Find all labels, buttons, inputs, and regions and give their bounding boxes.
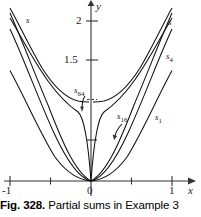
x-tick-label-1: 1 bbox=[169, 184, 175, 196]
curve-label-s-right-text: s bbox=[168, 17, 172, 27]
leader-s64-arrowhead bbox=[80, 107, 84, 113]
figure-caption: Fig. 328. Partial sums in Example 3 bbox=[0, 199, 201, 217]
leader-s16 bbox=[115, 124, 122, 136]
curve-label-s-left: s bbox=[26, 15, 30, 28]
curve-label-s1-sub: 1 bbox=[159, 117, 163, 125]
y-tick-label-1-5: 1.5 bbox=[64, 53, 78, 65]
curve-label-s4-sub: 4 bbox=[170, 56, 174, 64]
x-tick-label-0: 0 bbox=[87, 184, 93, 196]
y-tick-label-2: 2 bbox=[76, 14, 82, 26]
y-axis-arrowhead bbox=[88, 0, 95, 6]
curve-label-s64-sub: 64 bbox=[78, 90, 85, 98]
x-axis-name: x bbox=[188, 184, 193, 196]
x-tick-label-minus1: -1 bbox=[2, 184, 11, 196]
curve-label-s1: s1 bbox=[155, 112, 162, 125]
figure-panel: y x 2 1.5 -1 0 1 s s s4 s64 s16 s1 Fig. … bbox=[0, 0, 201, 217]
curve-label-s64: s64 bbox=[74, 85, 85, 98]
curve-label-s16: s16 bbox=[117, 111, 128, 124]
figure-caption-text: Partial sums in Example 3 bbox=[48, 199, 178, 211]
y-axis-ticks bbox=[86, 21, 98, 140]
figure-caption-number: Fig. 328. bbox=[0, 199, 45, 211]
curve-label-s16-sub: 16 bbox=[121, 116, 128, 124]
curve-label-s-right: s bbox=[168, 17, 172, 30]
leader-s16-arrowhead bbox=[113, 135, 118, 141]
partial-sums-plot bbox=[0, 0, 201, 200]
curve-label-s4: s4 bbox=[166, 51, 173, 64]
y-axis-name: y bbox=[96, 0, 101, 12]
curve-label-s-left-text: s bbox=[26, 15, 30, 25]
